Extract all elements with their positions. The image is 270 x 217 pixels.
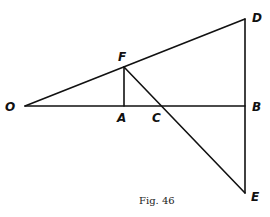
figure-46: O F A C B D E Fig. 46	[0, 0, 270, 217]
label-O: O	[5, 100, 15, 114]
geometry-diagram: O F A C B D E Fig. 46	[0, 0, 270, 217]
segment-OD	[25, 19, 245, 106]
label-B: B	[252, 100, 261, 114]
figure-caption: Fig. 46	[139, 195, 175, 206]
label-D: D	[252, 11, 262, 25]
label-E: E	[251, 190, 260, 204]
segment-FE	[124, 67, 245, 193]
label-A: A	[116, 111, 126, 125]
label-C: C	[152, 111, 161, 125]
label-F: F	[118, 50, 127, 64]
